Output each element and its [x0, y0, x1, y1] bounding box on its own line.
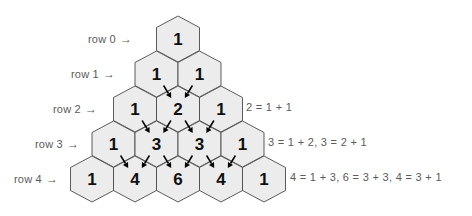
row-label-0: row 0→ — [88, 32, 132, 46]
row-label-3: row 3→ — [35, 137, 79, 151]
row-pointer-arrow-icon: → — [85, 102, 97, 116]
hexagon-value: 1 — [109, 135, 118, 154]
hexagon-value: 1 — [152, 65, 161, 84]
row-pointer-arrow-icon: → — [120, 32, 132, 46]
row-label-text: row 4 — [14, 173, 42, 185]
equation-row-4: 4 = 1 + 3, 6 = 3 + 3, 4 = 3 + 1 — [290, 171, 442, 183]
row-label-1: row 1→ — [71, 67, 115, 81]
row-pointer-arrow-icon: → — [103, 67, 115, 81]
hexagon-value: 6 — [173, 170, 182, 189]
hexagon-value: 1 — [87, 170, 96, 189]
hexagon-value: 2 — [173, 100, 182, 119]
row-label-text: row 2 — [53, 103, 81, 115]
hexagon-value: 1 — [173, 30, 182, 49]
row-pointer-arrow-icon: → — [67, 137, 79, 151]
row-label-4: row 4→ — [14, 172, 58, 186]
pascal-triangle-figure: 111121133114641 row 0→row 1→row 2→row 3→… — [0, 0, 472, 216]
row-label-text: row 1 — [71, 68, 99, 80]
hexagon-value: 1 — [216, 100, 225, 119]
equation-row-3: 3 = 1 + 2, 3 = 2 + 1 — [268, 136, 367, 148]
hexagon-value: 3 — [152, 135, 161, 154]
row-label-2: row 2→ — [53, 102, 97, 116]
row-pointer-arrow-icon: → — [46, 172, 58, 186]
hexagon-value: 4 — [130, 170, 140, 189]
hexagon-value: 1 — [238, 135, 247, 154]
row-label-text: row 0 — [88, 33, 116, 45]
hexagon-value: 3 — [195, 135, 204, 154]
equation-row-2: 2 = 1 + 1 — [246, 101, 292, 113]
hexagon-value: 1 — [259, 170, 268, 189]
hexagon-value: 1 — [195, 65, 204, 84]
row-label-text: row 3 — [35, 138, 63, 150]
hexagon-value: 4 — [216, 170, 226, 189]
hexagon-value: 1 — [130, 100, 139, 119]
